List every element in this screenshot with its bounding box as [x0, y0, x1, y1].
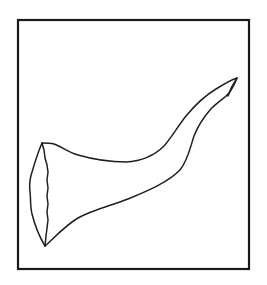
figure-frame [18, 20, 249, 269]
figure-canvas [0, 0, 267, 285]
horn-drawing [30, 78, 237, 246]
horn-body-outline [42, 78, 237, 246]
horn-mouth-outer [30, 143, 45, 246]
horn-mouth-inner [42, 143, 48, 246]
